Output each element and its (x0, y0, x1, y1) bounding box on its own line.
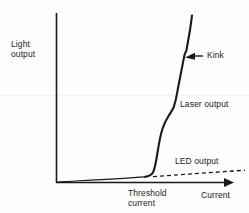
kink-annotation-label: Kink (207, 50, 224, 60)
threshold-current-label-line2: current (128, 198, 167, 208)
y-axis-label-line2: output (11, 49, 35, 59)
laser-output-curve (145, 16, 192, 177)
led-output-dashed-line (153, 170, 245, 176)
sub-threshold-curve (57, 177, 145, 182)
x-axis-label: Current (201, 190, 230, 200)
y-axis-label: Light output (11, 39, 35, 59)
laser-output-annotation-label: Laser output (180, 99, 228, 109)
x-axis-arrowhead-icon (224, 178, 234, 187)
y-axis-label-line1: Light (11, 39, 35, 49)
laser-li-characteristic-figure: Light output Kink Laser output LED outpu… (0, 0, 249, 213)
threshold-current-label: Threshold current (128, 188, 167, 208)
kink-arrowhead-icon (185, 53, 195, 60)
led-output-annotation-label: LED output (175, 156, 219, 166)
threshold-current-label-line1: Threshold (128, 188, 167, 198)
